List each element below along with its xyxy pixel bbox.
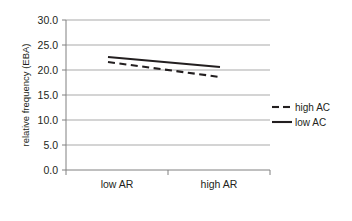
y-tick-label-5: 5.0 (43, 139, 58, 151)
chart-container: 30.0 25.0 20.0 15.0 10.0 5.0 0.0 relativ… (0, 0, 352, 221)
y-tick-label-0: 0.0 (43, 164, 58, 176)
legend-label-low-ac: low AC (295, 117, 326, 128)
legend: high AC low AC (272, 102, 330, 128)
y-tick-label-25: 25.0 (38, 39, 59, 51)
legend-label-high-ac: high AC (295, 102, 330, 113)
x-category-label-low-ar: low AR (101, 178, 134, 190)
line-chart: 30.0 25.0 20.0 15.0 10.0 5.0 0.0 relativ… (0, 0, 352, 221)
y-tick-label-20: 20.0 (38, 64, 59, 76)
x-axis-ticks (66, 170, 270, 175)
y-axis-ticks (62, 20, 66, 170)
y-tick-label-10: 10.0 (38, 114, 59, 126)
y-tick-label-30: 30.0 (38, 14, 59, 26)
x-category-label-high-ar: high AR (201, 178, 238, 190)
y-tick-label-15: 15.0 (38, 89, 59, 101)
y-axis-title: relative frequency (EBA) (20, 44, 31, 147)
